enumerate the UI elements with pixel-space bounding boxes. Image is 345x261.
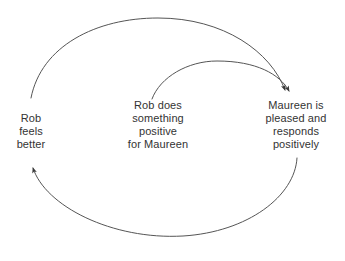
- arrow-maureen-to-rob-better: [33, 158, 297, 236]
- node-label-maureen-pleased: Maureen is pleased and responds positive…: [248, 99, 344, 151]
- arrow-rob-better-to-maureen: [31, 18, 285, 98]
- node-label-rob-feels-better: Rob feels better: [0, 112, 62, 151]
- diagram-canvas: Rob feels better Rob does something posi…: [0, 0, 345, 261]
- node-label-rob-does-something-positive: Rob does something positive for Maureen: [106, 99, 210, 151]
- arrow-rob-action-to-maureen: [152, 61, 289, 99]
